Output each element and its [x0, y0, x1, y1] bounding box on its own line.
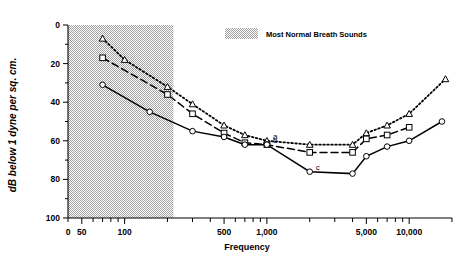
- data-point-b: [350, 150, 356, 156]
- y-axis-title: dB below 1 dyne per sq. cm.: [7, 58, 18, 192]
- svg-text:Frequency: Frequency: [224, 242, 270, 252]
- data-point-c: [406, 138, 412, 144]
- data-point-c: [221, 134, 227, 140]
- curve-label-b: b: [273, 136, 278, 145]
- data-point-b: [165, 92, 171, 98]
- data-point-b: [307, 150, 313, 156]
- data-point-c: [147, 109, 153, 115]
- y-tick-label: 0: [55, 20, 60, 30]
- data-point-b: [190, 111, 196, 117]
- data-point-c: [364, 153, 370, 159]
- chart-figure: 020406080100501005001,0005,00010,0000 ab…: [0, 0, 461, 267]
- data-point-a: [242, 132, 249, 138]
- x-tick-label: 100: [118, 227, 132, 237]
- data-point-c: [307, 169, 313, 175]
- x-tick-label: 10,000: [396, 227, 422, 237]
- svg-text:dB below 1 dyne per sq. cm.: dB below 1 dyne per sq. cm.: [7, 58, 18, 192]
- data-point-b: [364, 136, 370, 142]
- x-tick-label: 5,000: [356, 227, 378, 237]
- x-origin-label: 0: [66, 227, 71, 237]
- data-point-b: [406, 124, 412, 130]
- data-point-c: [190, 128, 196, 134]
- data-point-a: [221, 122, 228, 128]
- legend: Most Normal Breath Sounds: [225, 28, 367, 39]
- shaded-band: [68, 25, 173, 218]
- chart-canvas: 020406080100501005001,0005,00010,0000 ab…: [0, 0, 461, 267]
- x-tick-label: 500: [217, 227, 231, 237]
- data-point-a: [442, 76, 449, 82]
- data-point-c: [242, 142, 248, 148]
- data-point-b: [100, 55, 106, 61]
- data-point-c: [350, 171, 356, 177]
- x-axis-title: Frequency: [224, 242, 270, 252]
- curve-label-c: c: [316, 163, 320, 172]
- data-point-c: [384, 144, 390, 150]
- y-tick-label: 80: [51, 174, 61, 184]
- y-tick-label: 60: [51, 136, 61, 146]
- y-tick-label: 100: [46, 213, 60, 223]
- y-tick-label: 40: [51, 97, 61, 107]
- data-point-c: [439, 119, 445, 125]
- data-point-b: [384, 132, 390, 138]
- x-tick-label: 1,000: [256, 227, 278, 237]
- legend-swatch: [225, 28, 258, 39]
- data-point-c: [264, 142, 270, 148]
- x-tick-label: 50: [77, 227, 87, 237]
- y-tick-label: 20: [51, 59, 61, 69]
- data-point-c: [100, 82, 106, 88]
- legend-label: Most Normal Breath Sounds: [266, 30, 367, 39]
